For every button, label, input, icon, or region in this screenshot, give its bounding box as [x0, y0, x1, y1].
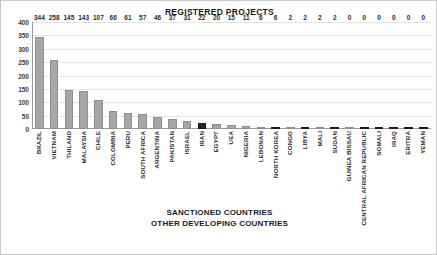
category-label: SOMALI	[376, 131, 382, 156]
category-label: NORTH KOREA	[273, 131, 279, 178]
category-label-slot: UEA	[224, 131, 239, 207]
y-tick-label: 400	[1, 19, 29, 26]
category-label: ARGENTINA	[154, 131, 160, 169]
legend-item-other-developing: OTHER DEVELOPING COUNTRIES	[1, 218, 437, 229]
bar-item: 145	[62, 22, 77, 129]
bar: 57	[138, 114, 147, 129]
category-label: IRAQ	[391, 131, 397, 147]
category-label-slot: IRAN	[194, 131, 209, 207]
category-label: BRAZIL	[36, 131, 42, 154]
bar-value-label: 143	[78, 14, 89, 21]
category-label: ERITRA	[405, 131, 411, 155]
bar-value-label: 0	[392, 14, 396, 21]
category-label-slot: PERU	[121, 131, 136, 207]
y-tick-label: 300	[1, 45, 29, 52]
bar: 6	[271, 127, 280, 129]
category-label: EGYPT	[213, 131, 219, 152]
category-label-slot: BRAZIL	[32, 131, 47, 207]
bar-value-label: 0	[421, 14, 425, 21]
bar-value-label: 2	[289, 14, 293, 21]
bar-item: 2	[313, 22, 328, 129]
bar: 22	[198, 123, 207, 129]
bar-value-label: 6	[274, 14, 278, 21]
category-label-slot: CENTRAL AFRICAN REPUBLIC	[357, 131, 372, 207]
bar: 2	[286, 127, 295, 129]
y-tick-label: 250	[1, 59, 29, 66]
category-label-slot: ARGENTINA	[150, 131, 165, 207]
bar-item: 61	[121, 22, 136, 129]
bar-item: 2	[283, 22, 298, 129]
category-label: SUDAN	[332, 131, 338, 154]
category-label-slot: LIBYA	[298, 131, 313, 207]
bar-series: 3442581451431076661574637312220151166222…	[32, 22, 431, 129]
category-label-slot: ERITRA	[401, 131, 416, 207]
bar-item: 66	[106, 22, 121, 129]
y-tick-label: 100	[1, 99, 29, 106]
bar: 2	[316, 127, 325, 129]
bar-item: 0	[357, 22, 372, 129]
bar-value-label: 37	[169, 14, 176, 21]
bar: 344	[35, 37, 44, 129]
category-label: YEMAN	[420, 131, 426, 154]
category-label-slot: VIETNAM	[47, 131, 62, 207]
category-label: PAKISTAN	[169, 131, 175, 163]
bar-value-label: 46	[154, 14, 161, 21]
category-label-slot: IRAQ	[386, 131, 401, 207]
bar: 0	[404, 127, 413, 129]
category-label: CHILE	[95, 131, 101, 150]
bar-item: 0	[372, 22, 387, 129]
bar: 31	[183, 121, 192, 129]
category-label: LEBONAN	[258, 131, 264, 162]
bar-item: 0	[386, 22, 401, 129]
bar-item: 344	[32, 22, 47, 129]
bar-item: 0	[416, 22, 431, 129]
bar-item: 143	[76, 22, 91, 129]
category-label-slot: PAKISTAN	[165, 131, 180, 207]
category-label-slot: CONGO	[283, 131, 298, 207]
x-axis-category-labels: BRAZILVIETNAMTHILANDMALAYSIACHILECOLOMBI…	[32, 131, 431, 207]
bar: 0	[375, 127, 384, 129]
chart-legend: SANCTIONED COUNTRIES OTHER DEVELOPING CO…	[1, 207, 437, 229]
bar-value-label: 107	[93, 14, 104, 21]
bar-value-label: 61	[124, 14, 131, 21]
bar: 2	[301, 127, 310, 129]
bar-item: 0	[342, 22, 357, 129]
category-label: PERU	[125, 131, 131, 149]
bar-item: 6	[268, 22, 283, 129]
bar-item: 0	[401, 22, 416, 129]
bar-item: 20	[209, 22, 224, 129]
bar-item: 6	[253, 22, 268, 129]
category-label: CONGO	[287, 131, 293, 155]
category-label: VIETNAM	[51, 131, 57, 160]
bar-item: 15	[224, 22, 239, 129]
bar: 11	[242, 126, 251, 129]
bar-value-label: 0	[362, 14, 366, 21]
bar: 145	[65, 90, 74, 129]
bar: 6	[257, 127, 266, 129]
bar-value-label: 2	[318, 14, 322, 21]
category-label: COLOMBIA	[110, 131, 116, 165]
category-label-slot: SUDAN	[327, 131, 342, 207]
category-label: THILAND	[66, 131, 72, 159]
bar-value-label: 66	[110, 14, 117, 21]
bar-item: 46	[150, 22, 165, 129]
bar: 258	[50, 60, 59, 129]
category-label-slot: GUINEA BISSAU	[342, 131, 357, 207]
y-tick-label: 200	[1, 72, 29, 79]
bar-item: 31	[180, 22, 195, 129]
bar-value-label: 344	[34, 14, 45, 21]
bar-item: 107	[91, 22, 106, 129]
bar: 61	[124, 113, 133, 129]
category-label: UEA	[228, 131, 234, 144]
y-tick-label: 0	[1, 126, 29, 133]
category-label: ISRAEL	[184, 131, 190, 154]
bar: 0	[389, 127, 398, 129]
bar: 0	[360, 127, 369, 129]
bar: 15	[227, 125, 236, 129]
bar-value-label: 57	[139, 14, 146, 21]
bar-item: 37	[165, 22, 180, 129]
y-tick-label: 150	[1, 85, 29, 92]
category-label-slot: NORTH KOREA	[268, 131, 283, 207]
bar: 0	[419, 127, 428, 129]
category-label-slot: EGYPT	[209, 131, 224, 207]
